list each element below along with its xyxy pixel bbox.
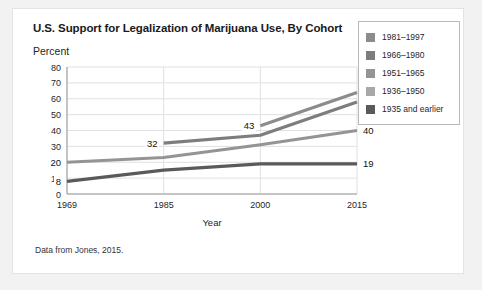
legend-item[interactable]: 1951–1965 (366, 64, 452, 82)
chart-card: U.S. Support for Legalization of Marijua… (12, 8, 464, 274)
chart-legend: 1981–19971966–19801951–19651936–19501935… (358, 21, 460, 125)
point-value-label: 8 (56, 176, 61, 187)
series-line (260, 92, 357, 125)
x-axis-tick-label: 1985 (154, 200, 174, 210)
point-value-label: 20 (50, 157, 61, 168)
y-axis-tick-label: 50 (51, 110, 61, 120)
legend-swatch-icon (366, 105, 375, 114)
legend-item-label: 1951–1965 (382, 68, 425, 78)
legend-swatch-icon (366, 51, 375, 60)
y-axis-tick-label: 80 (51, 63, 61, 73)
legend-item[interactable]: 1981–1997 (366, 28, 452, 46)
y-axis-tick-label: 60 (51, 94, 61, 104)
series-line (67, 164, 357, 181)
x-axis-tick-label: 1969 (57, 200, 77, 210)
point-value-label: 43 (244, 120, 255, 131)
x-axis-title: Year (202, 217, 221, 228)
y-axis-tick-label: 70 (51, 78, 61, 88)
y-axis-tick-label: 40 (51, 126, 61, 136)
x-axis-tick-label: 2015 (347, 200, 367, 210)
page-title: U.S. Support for Legalization of Marijua… (33, 22, 342, 34)
legend-swatch-icon (366, 87, 375, 96)
legend-item[interactable]: 1936–1950 (366, 82, 452, 100)
source-note: Data from Jones, 2015. (35, 245, 123, 255)
y-axis-tick-label: 0 (56, 190, 61, 200)
y-axis-title: Percent (33, 45, 69, 57)
point-value-label: 40 (363, 125, 374, 136)
legend-item-label: 1935 and earlier (382, 104, 443, 114)
legend-item-label: 1981–1997 (382, 32, 425, 42)
legend-item[interactable]: 1966–1980 (366, 46, 452, 64)
legend-item[interactable]: 1935 and earlier (366, 100, 452, 118)
point-value-label: 19 (363, 158, 374, 169)
legend-item-label: 1966–1980 (382, 50, 425, 60)
legend-swatch-icon (366, 33, 375, 42)
x-axis-tick-label: 2000 (250, 200, 270, 210)
y-axis-tick-label: 30 (51, 142, 61, 152)
legend-item-label: 1936–1950 (382, 86, 425, 96)
legend-swatch-icon (366, 69, 375, 78)
point-value-label: 32 (147, 138, 158, 149)
